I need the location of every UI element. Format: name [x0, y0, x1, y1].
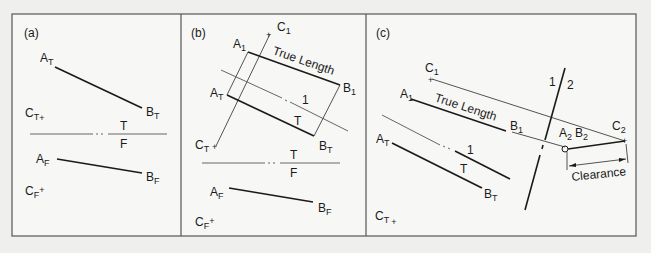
panel-label: (a) — [24, 26, 39, 40]
fold-label-1: 1 — [549, 75, 556, 89]
fold-label-top: T — [120, 119, 128, 133]
svg-text:+: + — [266, 30, 271, 40]
fold-label-bottom: F — [120, 137, 127, 151]
aux-fold-label-top: 1 — [467, 143, 474, 157]
panel-label: (c) — [376, 26, 390, 40]
svg-text:+: + — [622, 136, 627, 146]
fold-label-top: T — [290, 148, 298, 162]
svg-text:+: + — [428, 75, 433, 85]
svg-text:+: + — [212, 142, 217, 152]
aux-fold-label-top: 1 — [302, 93, 309, 107]
aux-fold-label-bottom: T — [294, 114, 302, 128]
fold-label-bottom: F — [290, 166, 297, 180]
fold-label-2: 2 — [567, 78, 574, 92]
aux-fold-label-bottom: T — [460, 162, 468, 176]
orthographic-projection-figure: (a) AT BT CT+ T F AF BF CF+ (b) + + C1 C… — [0, 0, 651, 253]
panel-label: (b) — [191, 26, 206, 40]
